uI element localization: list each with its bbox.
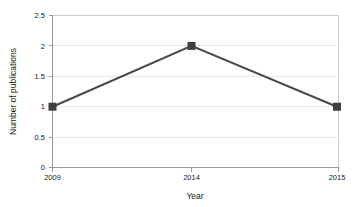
- y-tick-label-0-5: 0.5: [35, 133, 45, 142]
- x-tick-label-2014: 2014: [183, 173, 200, 182]
- y-axis-ticks: [49, 16, 53, 168]
- y-tick-label-1: 1: [41, 102, 45, 111]
- y-tick-label-1-5: 1.5: [35, 72, 45, 81]
- x-axis-tick-labels: 2009 2014 2015: [44, 173, 345, 182]
- line-chart: 2.5 2 1.5 1 0.5 0 2009 2014 2015 Number …: [0, 0, 360, 207]
- y-tick-label-0: 0: [41, 163, 45, 172]
- chart-container: 2.5 2 1.5 1 0.5 0 2009 2014 2015 Number …: [0, 0, 360, 207]
- data-point-2015[interactable]: [333, 103, 341, 111]
- y-axis-tick-labels: 2.5 2 1.5 1 0.5 0: [35, 11, 45, 172]
- x-tick-label-2009: 2009: [44, 173, 61, 182]
- plot-area-background: [52, 15, 338, 167]
- x-tick-label-2015: 2015: [329, 173, 346, 182]
- y-axis-title: Number of publications: [8, 48, 18, 135]
- x-axis-ticks: [53, 168, 339, 172]
- x-axis-title: Year: [186, 191, 203, 201]
- y-tick-label-2: 2: [41, 42, 45, 51]
- data-point-2014[interactable]: [188, 42, 196, 50]
- y-tick-label-2-5: 2.5: [35, 11, 45, 20]
- data-point-2009[interactable]: [49, 103, 57, 111]
